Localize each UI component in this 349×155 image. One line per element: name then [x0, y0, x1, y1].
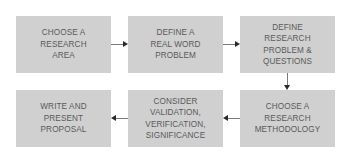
step-label: WRITE AND PRESENT PROPOSAL	[40, 101, 86, 136]
step-choose-research-area: CHOOSE A RESEARCH AREA	[16, 16, 111, 73]
step-label: CONSIDER VALIDATION, VERIFICATION, SIGNI…	[145, 96, 205, 142]
step-choose-research-methodology: CHOOSE A RESEARCH METHODOLOGY	[240, 90, 335, 147]
step-label: CHOOSE A RESEARCH AREA	[40, 27, 86, 62]
arrow-3-to-4-line	[287, 73, 288, 85]
step-label: DEFINE RESEARCH PROBLEM & QUESTIONS	[263, 22, 312, 68]
arrow-1-to-2-line	[111, 44, 123, 45]
arrow-2-to-3-line	[223, 44, 235, 45]
arrow-5-to-6-line	[116, 118, 128, 119]
step-label: DEFINE A REAL WORD PROBLEM	[150, 27, 200, 62]
step-write-present-proposal: WRITE AND PRESENT PROPOSAL	[16, 90, 111, 147]
step-define-real-word-problem: DEFINE A REAL WORD PROBLEM	[128, 16, 223, 73]
step-label: CHOOSE A RESEARCH METHODOLOGY	[255, 101, 321, 136]
step-consider-validation-verification-significance: CONSIDER VALIDATION, VERIFICATION, SIGNI…	[128, 90, 223, 147]
arrow-4-to-5-line	[228, 118, 240, 119]
step-define-research-problem-questions: DEFINE RESEARCH PROBLEM & QUESTIONS	[240, 16, 335, 73]
